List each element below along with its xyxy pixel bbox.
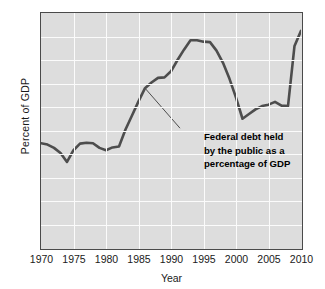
annotation-line-1: Federal debt held xyxy=(204,130,303,144)
gridline-vertical xyxy=(171,13,172,249)
gridline-vertical xyxy=(139,13,140,249)
chart-figure: Percent of GDP 05101520253035404550 Fede… xyxy=(0,0,325,289)
x-axis-title: Year xyxy=(40,272,303,284)
annotation-line-3: percentage of GDP xyxy=(204,157,303,171)
gridline-vertical xyxy=(74,13,75,249)
y-axis-title: Percent of GDP xyxy=(19,36,31,196)
annotation-text: Federal debt held by the public as a per… xyxy=(204,130,303,171)
annotation-line-2: by the public as a xyxy=(204,144,303,158)
gridline-vertical xyxy=(106,13,107,249)
x-tick-label: 2010 xyxy=(282,253,322,265)
annotation-leader-line xyxy=(145,88,180,128)
plot-area: Federal debt held by the public as a per… xyxy=(40,12,303,250)
